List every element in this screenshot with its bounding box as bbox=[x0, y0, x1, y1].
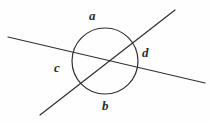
arc-label-b: b bbox=[102, 99, 109, 112]
geometry-figure: a b c d bbox=[0, 0, 211, 122]
arc-label-c: c bbox=[54, 61, 60, 74]
arc-label-d: d bbox=[142, 46, 149, 59]
arc-label-a: a bbox=[89, 9, 96, 22]
